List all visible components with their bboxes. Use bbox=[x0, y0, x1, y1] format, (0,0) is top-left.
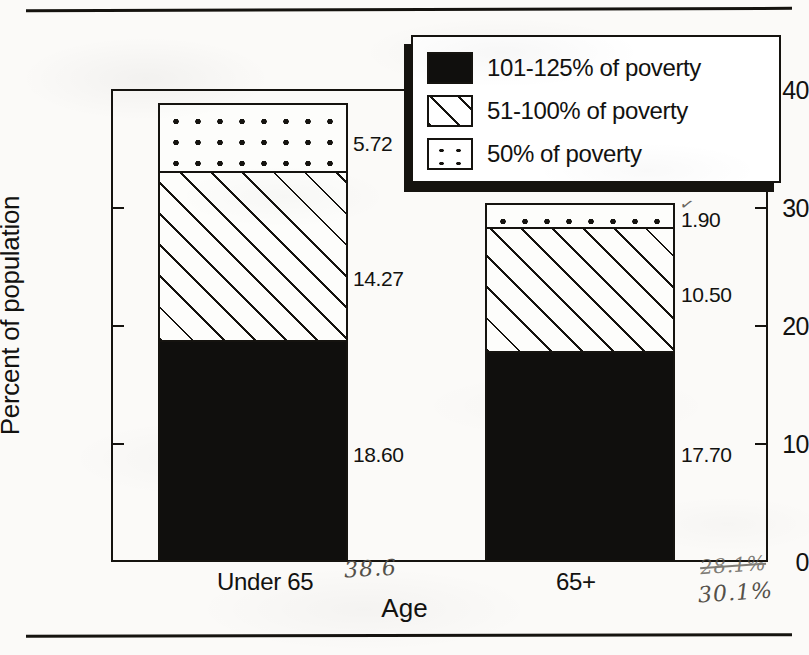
x-category-label-65-plus: 65+ bbox=[556, 568, 596, 596]
value-label-under65-50: 5.72 bbox=[353, 132, 392, 156]
legend-item-51-100[interactable]: 51-100% of poverty bbox=[413, 89, 779, 132]
legend-label-51-100: 51-100% of poverty bbox=[487, 97, 688, 125]
bar-segment-under65-50[interactable] bbox=[158, 103, 348, 173]
handwritten-annotation-65plus-total: 30.1% bbox=[697, 577, 773, 607]
legend-label-50: 50% of poverty bbox=[487, 140, 642, 168]
y-tick-mark-20 bbox=[111, 325, 124, 327]
bar-segment-65plus-101-125[interactable] bbox=[485, 351, 675, 562]
legend-label-101-125: 101-125% of poverty bbox=[487, 54, 701, 82]
value-label-under65-51-100: 14.27 bbox=[353, 267, 404, 291]
legend-swatch-dots-icon bbox=[427, 138, 473, 170]
y-tick-mark-right-30 bbox=[755, 207, 768, 209]
legend-swatch-solid-icon bbox=[427, 52, 473, 84]
bar-segment-65plus-50[interactable] bbox=[485, 203, 675, 229]
x-axis-title: Age bbox=[0, 593, 809, 624]
value-label-65plus-101-125: 17.70 bbox=[681, 443, 732, 467]
y-axis-title: Percent of population bbox=[0, 101, 26, 531]
value-label-under65-101-125: 18.60 bbox=[353, 443, 404, 467]
value-label-65plus-51-100: 10.50 bbox=[681, 283, 732, 307]
legend-swatch-hatch-icon bbox=[427, 95, 473, 127]
y-tick-label-10: 10 bbox=[763, 430, 809, 459]
bar-under-65[interactable] bbox=[158, 89, 348, 562]
handwritten-annotation-65plus-struck: 28.1% bbox=[699, 551, 767, 580]
y-tick-mark-right-20 bbox=[755, 325, 768, 327]
bar-segment-under65-51-100[interactable] bbox=[158, 171, 348, 342]
y-tick-label-30: 30 bbox=[763, 194, 809, 223]
legend-item-101-125[interactable]: 101-125% of poverty bbox=[413, 46, 779, 89]
y-tick-mark-10 bbox=[111, 443, 124, 445]
y-tick-mark-30 bbox=[111, 207, 124, 209]
page-rule-top bbox=[26, 7, 792, 12]
y-tick-label-0: 0 bbox=[763, 548, 809, 577]
legend-item-50[interactable]: 50% of poverty bbox=[413, 132, 779, 175]
bar-segment-under65-101-125[interactable] bbox=[158, 340, 348, 562]
handwritten-annotation-under65-total: 38.6 bbox=[343, 555, 397, 583]
page-rule-bottom bbox=[26, 633, 792, 638]
y-tick-label-20: 20 bbox=[763, 312, 809, 341]
bar-segment-65plus-51-100[interactable] bbox=[485, 227, 675, 353]
x-category-label-under-65: Under 65 bbox=[217, 568, 313, 596]
legend: 101-125% of poverty 51-100% of poverty 5… bbox=[411, 35, 781, 183]
y-tick-mark-right-10 bbox=[755, 443, 768, 445]
